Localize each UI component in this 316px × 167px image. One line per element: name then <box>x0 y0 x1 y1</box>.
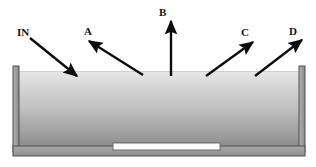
vessel-group <box>13 66 305 156</box>
flow-arrow-group <box>30 21 302 76</box>
flow-arrow-in <box>30 38 77 76</box>
heating-element <box>113 143 220 150</box>
vessel-flow-diagram: IN A B C D <box>0 0 316 167</box>
flow-label-d: D <box>289 25 297 37</box>
figure-canvas: IN A B C D <box>0 0 316 167</box>
vessel-left-wall <box>13 66 19 152</box>
flow-arrow-a <box>89 41 143 75</box>
flow-arrow-c <box>206 42 253 76</box>
flow-arrow-d <box>255 40 302 76</box>
flow-label-group: IN A B C D <box>17 6 297 38</box>
flow-label-in: IN <box>17 26 29 38</box>
flow-label-b: B <box>159 6 167 18</box>
vessel-right-wall <box>299 66 305 152</box>
flow-label-c: C <box>241 26 249 38</box>
liquid-body <box>19 71 299 146</box>
flow-label-a: A <box>84 25 92 37</box>
